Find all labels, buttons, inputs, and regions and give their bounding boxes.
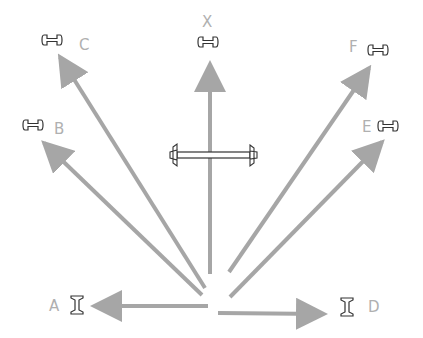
arrow-f <box>229 68 369 272</box>
spool-icon-b <box>23 120 43 130</box>
spool-icon-f <box>368 45 388 55</box>
arrow-d <box>218 313 324 314</box>
spool-icon-d <box>341 298 353 316</box>
label-c: C <box>79 38 89 53</box>
arrow-e <box>230 142 382 297</box>
spool-icon-x <box>198 37 218 47</box>
central-bar-object <box>170 144 257 166</box>
spool-icon-e <box>378 121 398 131</box>
arrow-b <box>44 143 202 295</box>
left-end-cap <box>170 144 177 166</box>
label-a: A <box>49 299 59 314</box>
arrow-c <box>60 57 205 288</box>
label-f: F <box>349 40 358 55</box>
label-b: B <box>54 122 64 137</box>
right-end-cap <box>250 145 257 166</box>
spool-icon-a <box>71 296 83 314</box>
label-x: X <box>202 15 212 30</box>
label-e: E <box>362 120 371 135</box>
arrows <box>44 57 382 314</box>
label-d: D <box>368 300 380 315</box>
radial-arrow-diagram <box>0 0 423 338</box>
spool-icon-c <box>42 35 62 45</box>
